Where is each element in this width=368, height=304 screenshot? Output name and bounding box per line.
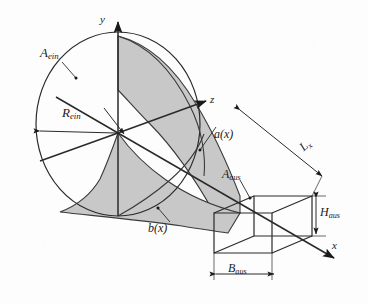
outlet-width-label: Baus [228,262,247,276]
x-axis-label: x [332,240,337,251]
inlet-area-leader [62,62,76,78]
z-axis-negative [40,133,118,161]
figure-canvas: Aein Rein y z x a(x) b(x) Aaus Lx Haus B… [0,0,368,304]
inlet-radius-label: Rein [62,106,81,121]
outlet-height-label: Haus [320,206,340,220]
inlet-area-label: Aein [40,46,59,61]
z-axis-label: z [210,94,214,105]
outlet-area-label: Aaus [222,168,241,182]
radius-dimension-line [40,131,116,133]
height-function-label: b(x) [148,222,167,234]
y-axis-label: y [100,14,105,25]
width-function-label: a(x) [214,128,233,140]
outlet-area-leader [240,180,250,198]
length-ext-line [312,176,322,196]
